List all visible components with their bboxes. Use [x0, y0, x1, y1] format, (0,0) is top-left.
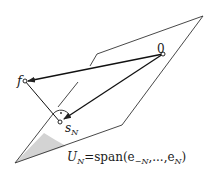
label-sub1: −N	[135, 157, 149, 166]
point-sN	[58, 120, 62, 124]
point-f	[23, 79, 27, 83]
segment-f-to-sN	[25, 81, 60, 122]
label-u: U	[67, 150, 77, 164]
label-subspace: UN=span(e−N,...,eN)	[67, 150, 186, 166]
right-angle-dot	[60, 112, 62, 114]
label-span-open: =span(e	[84, 150, 135, 164]
label-f: f	[17, 73, 22, 88]
diagram-canvas	[0, 0, 219, 174]
label-s-sub: N	[71, 128, 78, 137]
label-span-close: )	[182, 150, 187, 164]
label-span-mid: ,...,e	[148, 150, 174, 164]
label-s-n: sN	[65, 121, 78, 137]
label-sub2: N	[175, 157, 182, 166]
label-origin: 0	[157, 42, 165, 56]
